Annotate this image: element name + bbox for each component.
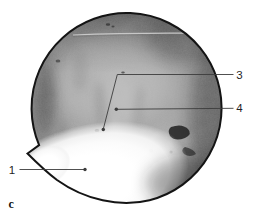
figure-panel: 1 3 4 c	[0, 0, 260, 224]
bottom-right-shadow	[146, 158, 238, 208]
callout-4-label: 4	[236, 102, 243, 114]
callout-3-label: 3	[236, 69, 242, 81]
callout-1-dot	[83, 168, 86, 171]
callout-1-label: 1	[9, 164, 15, 176]
arthroscopy-figure: 1 3 4 c	[0, 0, 260, 224]
panel-letter: c	[9, 197, 15, 211]
callout-3-dot	[102, 128, 105, 131]
callout-4-dot	[115, 108, 118, 111]
